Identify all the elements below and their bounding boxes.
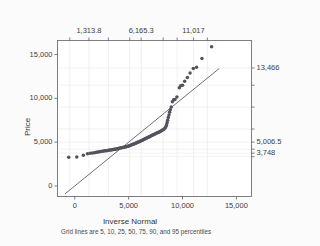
tick-label: 10,000: [0, 93, 53, 102]
tick-label: 11,017: [168, 26, 218, 35]
tick-label: 5,000: [104, 201, 154, 210]
tick-label: 0: [0, 181, 53, 190]
tick-label: 13,466: [257, 63, 280, 72]
y-axis-title: Price: [23, 117, 32, 135]
tick-label: 1,313.8: [64, 26, 114, 35]
tick-label: 15,000: [211, 201, 261, 210]
tick-label: 15,000: [0, 50, 53, 59]
tick-label: 5,006.5: [257, 137, 282, 146]
tick-label: 5,000: [0, 137, 53, 146]
tick-label: 10,000: [158, 201, 208, 210]
tick-label: 3,748: [257, 148, 276, 157]
tick-label: 6,165.3: [116, 26, 166, 35]
plot-area-background: [58, 41, 252, 197]
x-axis-title: Inverse Normal: [0, 217, 320, 226]
chart-figure: 05,00010,00015,000 05,00010,00015,000 1,…: [0, 0, 320, 246]
tick-label: 0: [50, 201, 100, 210]
chart-caption: Grid lines are 5, 10, 25, 50, 75, 90, an…: [61, 228, 211, 235]
